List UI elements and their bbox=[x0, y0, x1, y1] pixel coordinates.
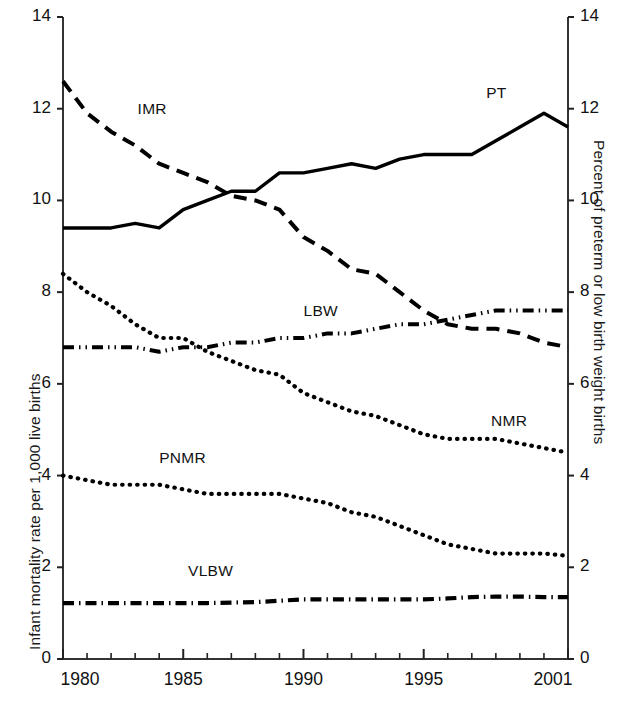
x-axis-tick-label: 1985 bbox=[160, 669, 206, 690]
y-axis-right-tick-label: 2 bbox=[580, 556, 619, 576]
y-axis-right-tick-label: 8 bbox=[580, 281, 619, 301]
chart-plot-area bbox=[0, 0, 619, 719]
y-axis-right-tick-label: 0 bbox=[580, 648, 619, 668]
y-axis-left-tick-label: 0 bbox=[11, 648, 51, 668]
y-axis-left-tick-label: 6 bbox=[11, 373, 51, 393]
series-line-pnmr bbox=[63, 476, 568, 556]
y-axis-right-tick-label: 10 bbox=[580, 189, 619, 209]
y-axis-left-tick-label: 14 bbox=[11, 6, 51, 26]
x-axis-tick-label: 1995 bbox=[401, 669, 447, 690]
x-axis-tick-label: 1990 bbox=[280, 669, 326, 690]
series-label-pnmr: PNMR bbox=[159, 449, 206, 467]
y-axis-left-tick-label: 2 bbox=[11, 556, 51, 576]
y-axis-right-tick-label: 4 bbox=[580, 465, 619, 485]
y-axis-right-tick-label: 14 bbox=[580, 6, 619, 26]
y-axis-right-title: Percent of preterm or low birth weight b… bbox=[582, 140, 608, 719]
y-axis-right-tick-label: 12 bbox=[580, 98, 619, 118]
series-label-nmr: NMR bbox=[491, 412, 527, 430]
series-line-pt bbox=[63, 113, 568, 228]
y-axis-right-tick-label: 6 bbox=[580, 373, 619, 393]
series-line-vlbw bbox=[63, 597, 568, 603]
y-axis-left-tick-label: 10 bbox=[11, 189, 51, 209]
series-label-pt: PT bbox=[486, 84, 506, 102]
series-label-lbw: LBW bbox=[303, 302, 338, 320]
chart-figure: Infant mortality rate per 1,000 live bir… bbox=[0, 0, 619, 719]
x-axis-tick-label: 2001 bbox=[530, 669, 576, 690]
y-axis-left-tick-label: 8 bbox=[11, 281, 51, 301]
series-label-imr: IMR bbox=[138, 100, 167, 118]
x-axis-tick-label: 1980 bbox=[57, 669, 103, 690]
y-axis-left-tick-label: 4 bbox=[11, 465, 51, 485]
y-axis-left-tick-label: 12 bbox=[11, 98, 51, 118]
series-label-vlbw: VLBW bbox=[188, 562, 233, 580]
